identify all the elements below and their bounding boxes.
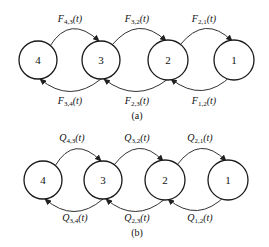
state-transition-figure: 4 3 2 1 F4,3(t) F3,2(t) F2,1(t) F3,4(t) … [0,0,269,247]
state-node-1: 1 [214,40,254,80]
state-node-2: 2 [148,40,188,80]
edge-label-F32: F3,2(t) [124,13,150,26]
svg-text:3: 3 [100,174,106,186]
svg-text:1: 1 [225,174,231,186]
edge-label-F34: F3,4(t) [57,95,83,108]
edge-3-4 [45,199,103,212]
edge-label-Q23: Q2,3(t) [124,212,150,225]
edge-2-3 [104,79,168,92]
edge-label-F12: F1,2(t) [191,95,217,108]
state-node-2: 2 [145,160,185,200]
edge-label-Q43: Q4,3(t) [59,132,85,145]
edge-label-Q21: Q2,1(t) [187,132,213,145]
svg-text:1: 1 [231,54,237,66]
edge-label-F23: F2,3(t) [124,95,150,108]
diagram-a: 4 3 2 1 F4,3(t) F3,2(t) F2,1(t) F3,4(t) … [19,13,254,122]
state-node-4: 4 [19,41,57,79]
edge-label-Q34: Q3,4(t) [62,212,88,225]
edge-label-F43: F4,3(t) [57,13,83,26]
diagram-b: 4 3 2 1 Q4,3(t) Q3,2(t) Q2,1(t) Q3,4(t) … [24,132,248,239]
caption-a: (a) [131,110,142,122]
state-node-1: 1 [208,160,248,200]
caption-b: (b) [131,227,143,239]
svg-text:4: 4 [35,54,41,66]
state-node-3: 3 [82,41,120,79]
edge-3-4 [40,79,101,92]
state-node-4: 4 [24,161,62,199]
svg-text:4: 4 [40,174,46,186]
svg-text:2: 2 [165,54,171,66]
svg-text:2: 2 [162,174,168,186]
edge-label-Q12: Q1,2(t) [187,212,213,225]
edge-2-3 [106,199,165,212]
edge-label-Q32: Q3,2(t) [124,132,150,145]
state-node-3: 3 [84,161,122,199]
edge-label-F21: F2,1(t) [191,13,217,26]
svg-text:3: 3 [98,54,104,66]
